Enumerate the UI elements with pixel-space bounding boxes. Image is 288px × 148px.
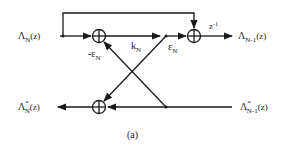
figure-caption: (a) (127, 129, 138, 141)
label-neg-epsilon: -εN (88, 48, 101, 62)
label-k: kN (131, 40, 141, 54)
bottom-signal-path (58, 106, 232, 109)
label-input-top: ΛN(z) (18, 30, 40, 44)
top-signal-path (60, 35, 232, 38)
lattice-filter-diagram: ΛN(z) ΛN-1(z) Λ*N(z) Λ*N-1(z) -εN kN εN … (0, 0, 288, 148)
summer-bottom (93, 101, 106, 114)
label-input-bottom: Λ*N-1(z) (240, 99, 268, 115)
bypass-path (63, 13, 194, 36)
label-delay: z-1 (209, 21, 218, 31)
label-output-top: ΛN-1(z) (238, 30, 266, 44)
summer-top-left (93, 30, 106, 43)
summer-top-right (188, 30, 201, 43)
label-output-bottom: Λ*N(z) (18, 99, 40, 115)
label-epsilon: εN (168, 41, 177, 55)
